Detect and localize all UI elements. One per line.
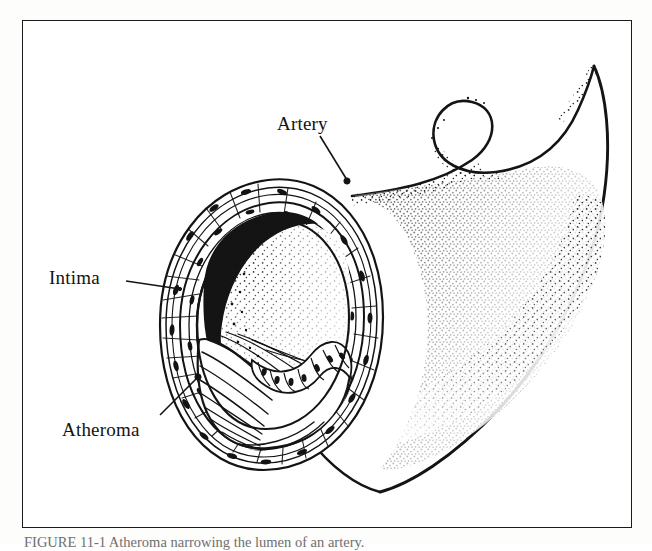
label-artery: Artery <box>277 113 328 135</box>
figure-frame-border <box>22 20 632 528</box>
label-intima: Intima <box>49 267 100 289</box>
figure-caption: FIGURE 11-1 Atheroma narrowing the lumen… <box>24 534 624 551</box>
label-atheroma: Atheroma <box>62 419 140 441</box>
